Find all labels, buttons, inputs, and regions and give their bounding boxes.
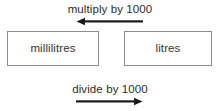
arrow-left-icon	[76, 17, 143, 26]
conversion-diagram: multiply by 1000 millilitres litres divi…	[0, 0, 220, 111]
arrow-right-icon	[76, 97, 143, 106]
unit-box-millilitres-label: millilitres	[30, 42, 75, 55]
unit-box-litres: litres	[124, 31, 212, 66]
multiply-caption: multiply by 1000	[0, 3, 220, 16]
divide-caption: divide by 1000	[0, 83, 220, 96]
unit-box-millilitres: millilitres	[7, 31, 99, 66]
unit-box-litres-label: litres	[156, 42, 181, 55]
